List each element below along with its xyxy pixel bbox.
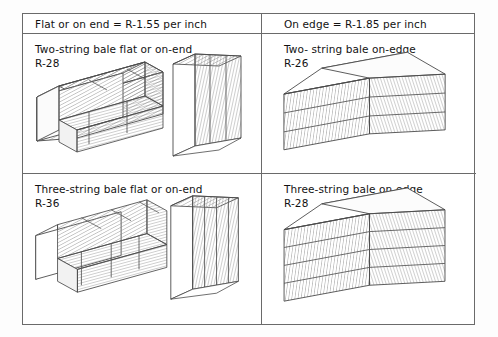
header-label-on-edge: On edge = R-1.85 per inch [284, 18, 427, 30]
straw-bale-r-value-chart: Flat or on end = R-1.55 per inch On edge… [0, 0, 498, 337]
cell-label-two-string-flat: Two-string bale flat or on-end R-28 [35, 43, 192, 70]
r-value-table: Flat or on end = R-1.55 per inch On edge… [22, 13, 475, 325]
header-label-flat-or-on-end: Flat or on end = R-1.55 per inch [35, 18, 207, 30]
bale-flat-two-string [37, 62, 163, 152]
table-header-row: Flat or on end = R-1.55 per inch On edge… [23, 14, 474, 34]
cell-label-three-string-flat: Three-string bale flat or on-end R-36 [35, 183, 203, 210]
header-cell-flat-or-on-end: Flat or on end = R-1.55 per inch [23, 14, 261, 34]
cell-two-string-flat: Two-string bale flat or on-end R-28 [23, 34, 261, 173]
bale-on-end-three-string [171, 196, 239, 299]
cell-label-two-string-on-edge: Two- string bale on-edge R-26 [284, 43, 416, 70]
table-body: Two-string bale flat or on-end R-28 [23, 34, 474, 325]
cell-label-three-string-on-edge: Three-string bale on-edge R-28 [284, 183, 423, 210]
header-cell-on-edge: On edge = R-1.85 per inch [261, 14, 476, 34]
cell-three-string-flat: Three-string bale flat or on-end R-36 [23, 173, 261, 325]
cell-two-string-on-edge: Two- string bale on-edge R-26 [261, 34, 476, 173]
cell-three-string-on-edge: Three-string bale on-edge R-28 [261, 173, 476, 325]
bale-flat-three-string [36, 200, 167, 292]
